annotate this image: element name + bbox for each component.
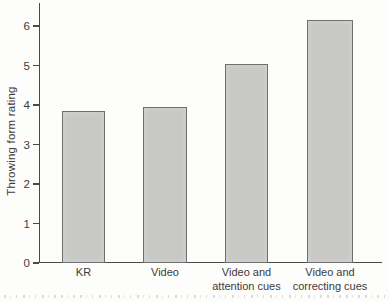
y-tick-mark-1 (33, 223, 39, 224)
cropped-caption-remnant (4, 293, 385, 299)
y-tick-label-3: 3 (6, 138, 30, 152)
y-tick-mark-3 (33, 144, 39, 145)
y-tick-label-2: 2 (6, 177, 30, 191)
bar-video (143, 107, 187, 263)
bar-video-and-correcting-cues (307, 20, 353, 263)
y-tick-label-6: 6 (6, 19, 30, 33)
bar-video-and-attention-cues (225, 64, 268, 263)
bar-kr (62, 111, 105, 263)
y-tick-label-1: 1 (6, 217, 30, 231)
bar-chart-figure: Throwing form rating 0123456 KRVideoVide… (0, 0, 389, 301)
y-tick-mark-0 (33, 262, 39, 263)
y-tick-label-5: 5 (6, 59, 30, 73)
y-tick-mark-5 (33, 65, 39, 66)
y-tick-mark-2 (33, 183, 39, 184)
x-category-label-video-and-correcting-cues: Video and correcting cues (270, 266, 389, 293)
y-tick-mark-4 (33, 104, 39, 105)
y-tick-mark-6 (33, 25, 39, 26)
y-tick-label-4: 4 (6, 98, 30, 112)
